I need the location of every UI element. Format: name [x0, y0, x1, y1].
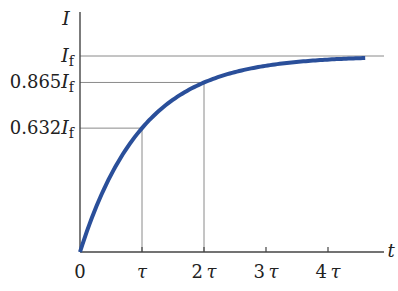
reference-guides — [80, 56, 384, 252]
x-tick-label: 3 τ — [253, 261, 279, 282]
current-curve — [80, 58, 365, 252]
x-tick-label: 2 τ — [191, 261, 217, 282]
x-tick-labels: 0τ2 τ3 τ4 τ — [74, 261, 341, 282]
x-axis-label: t — [387, 240, 395, 261]
y-reference-label: If — [60, 44, 76, 69]
x-tick-label: 4 τ — [315, 261, 341, 282]
rl-current-growth-chart: I t If0.865If0.632If 0τ2 τ3 τ4 τ — [0, 0, 398, 291]
y-reference-label: 0.865If — [10, 70, 76, 95]
y-reference-label: 0.632If — [10, 116, 76, 141]
x-ticks — [142, 247, 328, 252]
y-axis-label: I — [61, 7, 70, 29]
x-tick-label: 0 — [74, 261, 85, 282]
x-tick-label: τ — [137, 261, 148, 282]
y-reference-labels: If0.865If0.632If — [10, 44, 76, 141]
axes — [80, 12, 384, 252]
